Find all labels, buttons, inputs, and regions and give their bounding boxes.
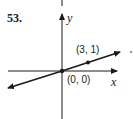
point-3-1 [86,61,90,65]
point-label-origin: (0, 0) [67,75,90,85]
y-axis-label: y [67,12,72,24]
graph-figure: 53. y x (3, 1) (0, 0) [0,0,133,119]
problem-number: 53. [7,12,22,24]
point-label-3-1: (3, 1) [76,45,99,55]
point-origin [60,69,64,73]
stray-mark [130,51,132,53]
graph-line-left [8,71,62,88]
x-axis-label: x [111,76,116,88]
